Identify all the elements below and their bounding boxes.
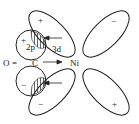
oxygen-label: O [3, 58, 10, 68]
d-lobe-upper-left [22, 4, 83, 65]
carbon-label: C [32, 58, 38, 68]
d-lobe-upper-right [76, 4, 137, 65]
sign-d-lower-right: + [112, 99, 117, 109]
sign-d-upper-right: − [111, 16, 116, 26]
orbital-2p-label: 2p [26, 42, 36, 52]
sign-p-lower: − [21, 80, 26, 90]
orbital-3d-label: 3d [52, 44, 62, 54]
orbital-diagram: O = C Ni 2p 3d + − + − − + [0, 0, 139, 124]
bond-label: = [12, 58, 17, 68]
sign-d-lower-left: − [38, 99, 43, 109]
overlap-lower [31, 78, 46, 95]
d-lobe-lower-right [76, 62, 137, 123]
sign-p-upper: + [21, 35, 26, 45]
d-lobe-lower-left [22, 62, 83, 123]
nickel-label: Ni [70, 58, 79, 68]
sign-d-upper-left: + [38, 15, 43, 25]
